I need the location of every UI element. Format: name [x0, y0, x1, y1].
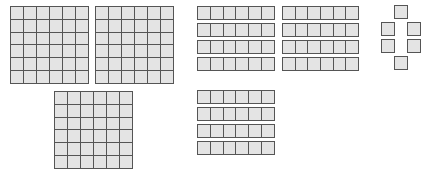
- block-cell: [296, 41, 308, 53]
- ten-strip: [197, 6, 275, 20]
- block-cell: [148, 20, 160, 32]
- block-cell: [63, 58, 75, 70]
- block-cell: [94, 92, 106, 104]
- block-cell: [107, 156, 119, 168]
- block-cell: [283, 24, 295, 36]
- block-cell: [283, 58, 295, 70]
- block-cell: [55, 143, 67, 155]
- ten-strip: [197, 40, 275, 54]
- block-cell: [81, 143, 93, 155]
- block-cell: [148, 58, 160, 70]
- block-cell: [211, 58, 223, 70]
- block-cell: [296, 58, 308, 70]
- hundred-square-square-3: [54, 91, 133, 169]
- block-cell: [50, 33, 62, 45]
- block-cell: [249, 41, 261, 53]
- block-cell: [81, 156, 93, 168]
- unit-square: [381, 39, 395, 53]
- block-cell: [308, 24, 320, 36]
- unit-square: [381, 22, 395, 36]
- block-cell: [76, 58, 88, 70]
- block-cell: [161, 71, 173, 83]
- block-cell: [198, 142, 210, 154]
- block-cell: [135, 33, 147, 45]
- block-cell: [81, 92, 93, 104]
- block-cell: [249, 142, 261, 154]
- block-cell: [346, 7, 358, 19]
- block-cell: [63, 71, 75, 83]
- block-cell: [37, 20, 49, 32]
- block-cell: [122, 45, 134, 57]
- block-cell: [236, 108, 248, 120]
- block-cell: [81, 130, 93, 142]
- block-cell: [334, 24, 346, 36]
- block-cell: [107, 118, 119, 130]
- block-cell: [11, 45, 23, 57]
- block-cell: [198, 24, 210, 36]
- block-cell: [37, 45, 49, 57]
- block-cell: [334, 58, 346, 70]
- block-cell: [148, 7, 160, 19]
- block-cell: [122, 71, 134, 83]
- block-cell: [120, 156, 132, 168]
- ten-strip: [197, 90, 275, 104]
- block-cell: [262, 125, 274, 137]
- block-cell: [109, 71, 121, 83]
- ten-strip: [197, 141, 275, 155]
- block-cell: [109, 7, 121, 19]
- block-cell: [107, 130, 119, 142]
- block-cell: [94, 105, 106, 117]
- block-cell: [283, 7, 295, 19]
- block-cell: [122, 33, 134, 45]
- block-cell: [161, 33, 173, 45]
- block-cell: [68, 92, 80, 104]
- block-cell: [96, 33, 108, 45]
- block-cell: [50, 45, 62, 57]
- block-cell: [120, 92, 132, 104]
- block-cell: [198, 41, 210, 53]
- block-cell: [24, 71, 36, 83]
- block-cell: [308, 41, 320, 53]
- block-cell: [37, 58, 49, 70]
- block-cell: [96, 71, 108, 83]
- block-cell: [211, 7, 223, 19]
- block-cell: [96, 58, 108, 70]
- block-cell: [262, 24, 274, 36]
- block-cell: [249, 58, 261, 70]
- block-cell: [63, 20, 75, 32]
- block-cell: [296, 7, 308, 19]
- block-cell: [76, 7, 88, 19]
- block-cell: [11, 20, 23, 32]
- block-cell: [120, 143, 132, 155]
- block-cell: [161, 45, 173, 57]
- ten-strip: [197, 23, 275, 37]
- block-cell: [37, 33, 49, 45]
- block-cell: [211, 142, 223, 154]
- block-cell: [37, 7, 49, 19]
- block-cell: [198, 91, 210, 103]
- block-cell: [334, 7, 346, 19]
- block-cell: [120, 118, 132, 130]
- block-cell: [148, 33, 160, 45]
- block-cell: [76, 20, 88, 32]
- block-cell: [262, 142, 274, 154]
- block-cell: [211, 125, 223, 137]
- block-cell: [249, 91, 261, 103]
- block-cell: [211, 91, 223, 103]
- block-cell: [224, 125, 236, 137]
- block-cell: [224, 24, 236, 36]
- block-cell: [24, 45, 36, 57]
- ten-strip: [282, 6, 359, 20]
- block-cell: [55, 156, 67, 168]
- ten-strip: [197, 107, 275, 121]
- block-cell: [161, 7, 173, 19]
- ten-strip: [282, 40, 359, 54]
- block-cell: [50, 58, 62, 70]
- block-cell: [109, 45, 121, 57]
- block-cell: [68, 156, 80, 168]
- block-cell: [68, 143, 80, 155]
- block-cell: [76, 33, 88, 45]
- block-cell: [321, 24, 333, 36]
- block-cell: [68, 118, 80, 130]
- block-cell: [161, 58, 173, 70]
